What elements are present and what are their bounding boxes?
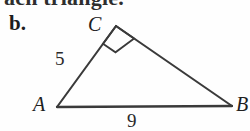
- figure-canvas: ach triangle. b. C A B 5 9: [0, 0, 250, 131]
- side-length-AC: 5: [55, 49, 65, 68]
- vertex-label-A: A: [33, 94, 45, 114]
- triangle-outline: [57, 26, 232, 107]
- side-length-AB: 9: [127, 111, 137, 130]
- vertex-label-C: C: [88, 14, 101, 34]
- vertex-label-B: B: [236, 94, 248, 114]
- segment-AB: [57, 106, 232, 107]
